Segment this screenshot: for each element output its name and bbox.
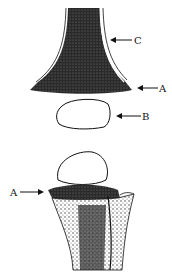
label-a-bottom: A [9, 187, 18, 198]
label-c-arrow: C [110, 35, 142, 46]
bottom-bone-shaft [52, 193, 134, 270]
bottom-growth-plate [48, 185, 120, 200]
label-a-top: A [158, 83, 167, 94]
label-b: B [142, 111, 149, 122]
label-b-arrow: B [116, 111, 149, 122]
label-a-bottom-arrow: A [9, 187, 44, 198]
bone-diagram: C A B A [0, 0, 172, 279]
label-c: C [134, 35, 142, 46]
top-epiphysis-b [57, 99, 110, 129]
bottom-epiphysis [58, 152, 108, 185]
label-a-top-arrow: A [137, 83, 167, 94]
top-bone-metaphysis [30, 8, 132, 94]
